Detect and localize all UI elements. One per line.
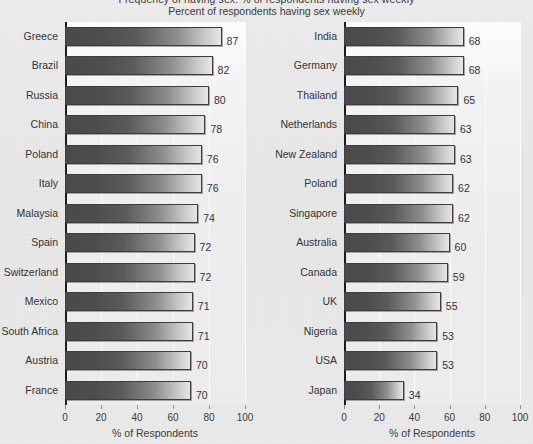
bar[interactable]: 71 — [65, 322, 193, 341]
bar[interactable]: 76 — [65, 145, 202, 164]
bar-row[interactable]: Brazil82 — [65, 51, 245, 80]
bar-value-label: 62 — [458, 179, 470, 198]
bar-row[interactable]: Germany68 — [344, 51, 520, 80]
x-axis-tick — [344, 405, 345, 409]
bar[interactable]: 70 — [65, 381, 191, 400]
bar-category-label: France — [25, 381, 58, 400]
x-axis-tick — [245, 405, 246, 409]
bar-value-label: 62 — [458, 209, 470, 228]
bar-category-label: Poland — [304, 174, 337, 193]
bar[interactable]: 78 — [65, 115, 205, 134]
bar-value-label: 65 — [463, 91, 475, 110]
bar-row[interactable]: Italy76 — [65, 169, 245, 198]
bar-row[interactable]: China78 — [65, 110, 245, 139]
bar-row[interactable]: Thailand65 — [344, 81, 520, 110]
bar-fill — [65, 27, 222, 46]
bar-row[interactable]: New Zealand63 — [344, 140, 520, 169]
bar[interactable]: 60 — [344, 233, 450, 252]
bar[interactable]: 76 — [65, 174, 202, 193]
bar-fill — [65, 115, 205, 134]
bar-value-label: 76 — [207, 150, 219, 169]
chart-subtitle: Percent of respondents having sex weekly — [0, 5, 533, 17]
x-axis-tick — [65, 405, 66, 409]
bar-row[interactable]: Netherlands63 — [344, 110, 520, 139]
bar[interactable]: 34 — [344, 381, 404, 400]
bar-fill — [65, 381, 191, 400]
bar-row[interactable]: Russia80 — [65, 81, 245, 110]
x-axis-tick-label: 100 — [237, 412, 254, 423]
bar-row[interactable]: Poland62 — [344, 169, 520, 198]
bar-row[interactable]: Spain72 — [65, 228, 245, 257]
bar-row[interactable]: Canada59 — [344, 258, 520, 287]
bar-fill — [65, 233, 195, 252]
bar[interactable]: 68 — [344, 56, 464, 75]
bar-row[interactable]: Singapore62 — [344, 199, 520, 228]
bar-category-label: Brazil — [32, 56, 58, 75]
bar-value-label: 71 — [198, 297, 210, 316]
bar-row[interactable]: Mexico71 — [65, 287, 245, 316]
bar[interactable]: 53 — [344, 322, 437, 341]
bar-fill — [65, 292, 193, 311]
bar[interactable]: 80 — [65, 86, 209, 105]
x-axis-tick-label: 20 — [374, 412, 385, 423]
bar-category-label: China — [31, 115, 58, 134]
bar-row[interactable]: India68 — [344, 22, 520, 51]
bar[interactable]: 63 — [344, 115, 455, 134]
bar-row[interactable]: Nigeria53 — [344, 317, 520, 346]
bar-value-label: 59 — [453, 268, 465, 287]
x-axis-tick-label: 0 — [62, 412, 68, 423]
bar-row[interactable]: France70 — [65, 376, 245, 405]
bar[interactable]: 63 — [344, 145, 455, 164]
bar-value-label: 72 — [200, 238, 212, 257]
bar-row[interactable]: Malaysia74 — [65, 199, 245, 228]
x-axis-label-right: % of Respondents — [344, 427, 520, 439]
bar-category-label: Thailand — [297, 86, 337, 105]
x-axis-tick — [450, 405, 451, 409]
bar-category-label: Poland — [25, 145, 58, 164]
bar-rows-right: India68Germany68Thailand65Netherlands63N… — [344, 22, 520, 405]
bar-row[interactable]: South Africa71 — [65, 317, 245, 346]
bar-fill — [344, 145, 455, 164]
bar-row[interactable]: UK55 — [344, 287, 520, 316]
bar[interactable]: 72 — [65, 263, 195, 282]
bar[interactable]: 55 — [344, 292, 441, 311]
bar-value-label: 80 — [214, 91, 226, 110]
bar[interactable]: 72 — [65, 233, 195, 252]
gridline — [520, 22, 521, 405]
bar-row[interactable]: Switzerland72 — [65, 258, 245, 287]
bar-fill — [65, 86, 209, 105]
bar-category-label: Nigeria — [304, 322, 337, 341]
bar-category-label: Netherlands — [280, 115, 337, 134]
bar-row[interactable]: Greece87 — [65, 22, 245, 51]
bar-value-label: 82 — [218, 61, 230, 80]
bar[interactable]: 59 — [344, 263, 448, 282]
bar-row[interactable]: Austria70 — [65, 346, 245, 375]
bar-category-label: Spain — [31, 233, 58, 252]
bar[interactable]: 68 — [344, 27, 464, 46]
bar[interactable]: 82 — [65, 56, 213, 75]
x-axis-tick-label: 100 — [512, 412, 529, 423]
bar-row[interactable]: USA53 — [344, 346, 520, 375]
bar[interactable]: 53 — [344, 351, 437, 370]
bar[interactable]: 62 — [344, 174, 453, 193]
bar-fill — [344, 86, 458, 105]
bar-row[interactable]: Australia60 — [344, 228, 520, 257]
x-axis-tick-label: 20 — [95, 412, 106, 423]
bar[interactable]: 71 — [65, 292, 193, 311]
bar-value-label: 63 — [460, 150, 472, 169]
bar[interactable]: 87 — [65, 27, 222, 46]
x-axis-tick — [520, 405, 521, 409]
bar-fill — [344, 381, 404, 400]
x-axis-left: 020406080100 % of Respondents — [65, 405, 245, 431]
bar-category-label: India — [314, 27, 337, 46]
bar-category-label: New Zealand — [275, 145, 337, 164]
bar-category-label: Singapore — [289, 204, 337, 223]
bar[interactable]: 62 — [344, 204, 453, 223]
bar-value-label: 71 — [198, 327, 210, 346]
bar[interactable]: 65 — [344, 86, 458, 105]
bar-row[interactable]: Poland76 — [65, 140, 245, 169]
bar[interactable]: 74 — [65, 204, 198, 223]
bar-category-label: Canada — [300, 263, 337, 282]
bar-row[interactable]: Japan34 — [344, 376, 520, 405]
bar[interactable]: 70 — [65, 351, 191, 370]
